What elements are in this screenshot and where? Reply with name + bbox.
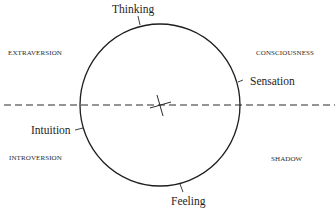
caption-extraversion: EXTRAVERSION (8, 49, 62, 57)
label-feeling: Feeling (171, 195, 206, 208)
sensation-leader (238, 80, 243, 82)
caption-introversion: INTROVERSION (9, 154, 62, 162)
label-sensation: Sensation (250, 75, 295, 87)
label-thinking: Thinking (112, 3, 154, 16)
caption-shadow: SHADOW (271, 155, 303, 163)
feeling-leader (180, 184, 183, 192)
caption-consciousness: CONSCIOUSNESS (256, 49, 314, 57)
label-intuition: Intuition (31, 124, 71, 136)
intuition-leader (75, 128, 83, 130)
thinking-leader (138, 16, 140, 25)
jung-functions-diagram: Thinking Sensation Intuition Feeling EXT… (0, 0, 335, 212)
